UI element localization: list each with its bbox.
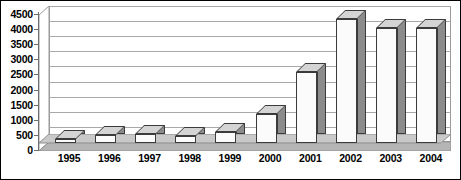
bar-column [296, 63, 326, 143]
bar-front-face [336, 19, 357, 143]
y-axis-tick-label: 500 [16, 130, 33, 141]
y-axis-tick [34, 90, 39, 91]
bar-front-face [296, 72, 317, 143]
y-axis-tick [34, 135, 39, 136]
x-axis-tick-label: 1998 [178, 153, 201, 164]
x-axis-tick-label: 2000 [259, 153, 282, 164]
y-axis-tick [34, 29, 39, 30]
bar-column [175, 127, 205, 143]
y-axis-tick-label: 4000 [10, 24, 33, 35]
bar-side-face [397, 19, 406, 134]
y-axis-tick [34, 120, 39, 121]
y-axis-tick [34, 150, 39, 151]
bar-column [55, 130, 85, 143]
y-axis-labels: 050010001500200025003000350040004500 [1, 1, 37, 180]
bar-column [95, 126, 125, 143]
y-axis-tick [34, 59, 39, 60]
bar-front-face [416, 28, 437, 143]
x-axis-tick-label: 1996 [98, 153, 121, 164]
bar-front-face [175, 136, 196, 143]
y-axis-tick-label: 0 [27, 145, 33, 156]
bar-column [376, 19, 406, 143]
x-axis-tick-label: 2002 [339, 153, 362, 164]
x-axis-tick-label: 1997 [138, 153, 161, 164]
y-axis-tick [34, 74, 39, 75]
bar-side-face [437, 19, 446, 134]
x-axis-tick-label: 2001 [299, 153, 322, 164]
bar-front-face [215, 132, 236, 143]
y-axis-tick [34, 105, 39, 106]
x-axis-tick-label: 1995 [58, 153, 81, 164]
x-axis-tick-label: 1999 [219, 153, 242, 164]
y-axis-tick-label: 1500 [10, 99, 33, 110]
bar-column [135, 125, 165, 143]
bar-column [215, 123, 245, 143]
bar-column [416, 19, 446, 143]
bar-top-face [175, 127, 205, 136]
bar-front-face [135, 134, 156, 143]
y-axis-tick [34, 14, 39, 15]
bar-chart-figure: 050010001500200025003000350040004500 199… [0, 0, 461, 180]
bar-front-face [95, 135, 116, 143]
y-axis-tick-label: 4500 [10, 9, 33, 20]
x-axis-tick-label: 2004 [420, 153, 443, 164]
y-axis-tick-label: 3000 [10, 54, 33, 65]
y-axis-tick-label: 3500 [10, 39, 33, 50]
bar-side-face [357, 10, 366, 134]
bar-front-face [376, 28, 397, 143]
y-axis-tick-label: 2500 [10, 69, 33, 80]
bar-top-face [55, 130, 85, 139]
x-axis-labels: 1995199619971998199920002001200220032004 [39, 153, 451, 173]
y-axis-tick [34, 44, 39, 45]
bars-layer [39, 6, 451, 151]
x-axis-tick-label: 2003 [379, 153, 402, 164]
bar-column [256, 105, 286, 143]
bar-side-face [317, 63, 326, 134]
y-axis-tick-label: 1000 [10, 115, 33, 126]
bar-front-face [256, 114, 277, 143]
bar-front-face [55, 139, 76, 143]
y-axis-tick-label: 2000 [10, 84, 33, 95]
bar-column [336, 10, 366, 143]
